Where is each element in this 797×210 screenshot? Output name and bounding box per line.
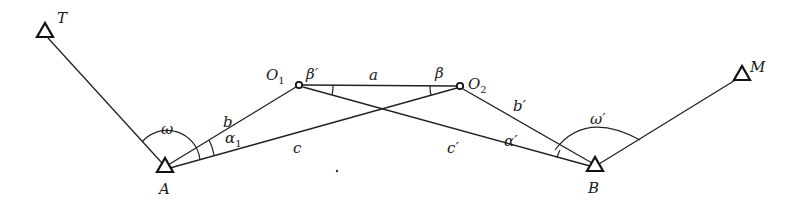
edge-O1-O2-a xyxy=(303,85,456,86)
point-O2-icon xyxy=(457,83,463,89)
label-O2: O2 xyxy=(468,75,487,95)
station-M-icon xyxy=(734,66,750,80)
label-side-a: a xyxy=(369,66,378,84)
arc-beta-prime xyxy=(332,85,333,95)
edge-O2-B-b-prime xyxy=(463,89,592,163)
stray-dot xyxy=(336,170,338,172)
label-side-c: c xyxy=(293,139,302,157)
edges xyxy=(48,38,737,168)
label-omega: ω xyxy=(161,120,173,138)
edge-B-M xyxy=(599,79,737,164)
label-omega-prime: ω′ xyxy=(590,110,606,128)
station-B-icon xyxy=(587,157,603,171)
survey-resection-diagram: T A B M O1 O2 a b c b′ c′ ω ω′ α1 α′ β β… xyxy=(0,0,797,210)
arc-alpha1 xyxy=(209,140,214,155)
label-M: M xyxy=(749,58,766,76)
label-T: T xyxy=(57,9,68,27)
label-beta: β xyxy=(434,64,444,82)
label-alpha1: α1 xyxy=(225,129,242,149)
edge-T-A xyxy=(48,38,162,163)
arc-beta xyxy=(430,86,431,95)
label-beta-prime: β′ xyxy=(305,65,319,83)
label-B: B xyxy=(587,179,599,197)
label-side-c-prime: c′ xyxy=(447,139,459,157)
station-T-icon xyxy=(37,23,53,37)
point-O1-icon xyxy=(296,82,302,88)
label-alpha-prime: α′ xyxy=(504,132,518,150)
label-O1: O1 xyxy=(266,66,285,86)
edge-A-O2-c xyxy=(170,88,457,168)
label-A: A xyxy=(157,180,170,198)
label-side-b-prime: b′ xyxy=(513,97,527,115)
angle-arcs xyxy=(142,85,640,160)
stations xyxy=(37,23,750,172)
